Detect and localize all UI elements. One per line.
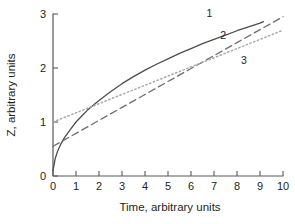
chart-axes	[53, 14, 283, 176]
x-tick-label: 9	[257, 180, 263, 192]
y-axis-title: Z, arbitrary units	[5, 53, 17, 136]
x-tick-label: 3	[119, 180, 125, 192]
x-tick-label: 6	[188, 180, 194, 192]
x-axis-ticks: 012345678910	[50, 171, 289, 192]
series-label-1: 1	[206, 7, 212, 19]
x-tick-label: 8	[234, 180, 240, 192]
series-label-2: 2	[220, 29, 226, 41]
series-line-1	[53, 22, 263, 171]
y-tick-label: 3	[40, 8, 46, 20]
series-line-3	[53, 30, 283, 122]
x-tick-label: 0	[50, 180, 56, 192]
x-tick-label: 7	[211, 180, 217, 192]
chart-figure: 012345678910 0123 123 Time, arbitrary un…	[0, 0, 295, 224]
series-label-3: 3	[241, 54, 247, 66]
x-tick-label: 5	[165, 180, 171, 192]
series-line-2	[53, 17, 283, 147]
y-tick-label: 0	[40, 170, 46, 182]
line-chart: 012345678910 0123 123 Time, arbitrary un…	[0, 0, 295, 224]
x-tick-label: 1	[73, 180, 79, 192]
y-tick-label: 2	[40, 62, 46, 74]
x-tick-label: 10	[277, 180, 289, 192]
axis-lines	[53, 14, 283, 176]
x-axis-title: Time, arbitrary units	[119, 201, 220, 213]
y-tick-label: 1	[40, 116, 46, 128]
x-tick-label: 4	[142, 180, 148, 192]
y-axis-ticks: 0123	[40, 8, 58, 182]
x-tick-label: 2	[96, 180, 102, 192]
chart-series-lines	[53, 17, 283, 171]
